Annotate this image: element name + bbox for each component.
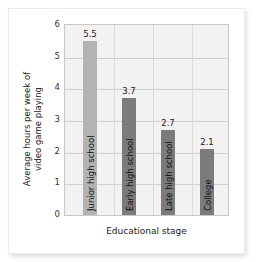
y-tick-label: 6 — [52, 19, 60, 29]
y-axis-label-line-2: video game playing — [33, 44, 44, 214]
bar: Late high school — [161, 130, 175, 216]
y-axis-label: Average hours per week of video game pla… — [22, 44, 44, 214]
plot-area: Junior high school5.5Early high school3.… — [64, 24, 229, 216]
vertical-gridline — [114, 25, 115, 215]
bar-category-label: Early high school — [125, 138, 135, 211]
bar-value-label: 5.5 — [75, 29, 105, 39]
y-tick-label: 3 — [52, 114, 60, 124]
bar: Junior high school — [83, 41, 97, 215]
bar: Early high school — [122, 98, 136, 215]
y-tick-label: 0 — [52, 209, 60, 219]
bar-category-label: Late high school — [164, 141, 174, 211]
bar: College — [200, 149, 214, 216]
y-tick-label: 2 — [52, 146, 60, 156]
bar-value-label: 2.7 — [153, 118, 183, 128]
y-axis-label-line-1: Average hours per week of — [22, 44, 33, 214]
bar-value-label: 3.7 — [114, 86, 144, 96]
bar-value-label: 2.1 — [192, 137, 222, 147]
bar-category-label: College — [203, 179, 213, 211]
y-tick-label: 5 — [52, 51, 60, 61]
x-axis-label: Educational stage — [64, 226, 229, 236]
y-tick-label: 1 — [52, 177, 60, 187]
y-tick-label: 4 — [52, 82, 60, 92]
vertical-gridline — [192, 25, 193, 215]
bar-category-label: Junior high school — [86, 135, 96, 211]
